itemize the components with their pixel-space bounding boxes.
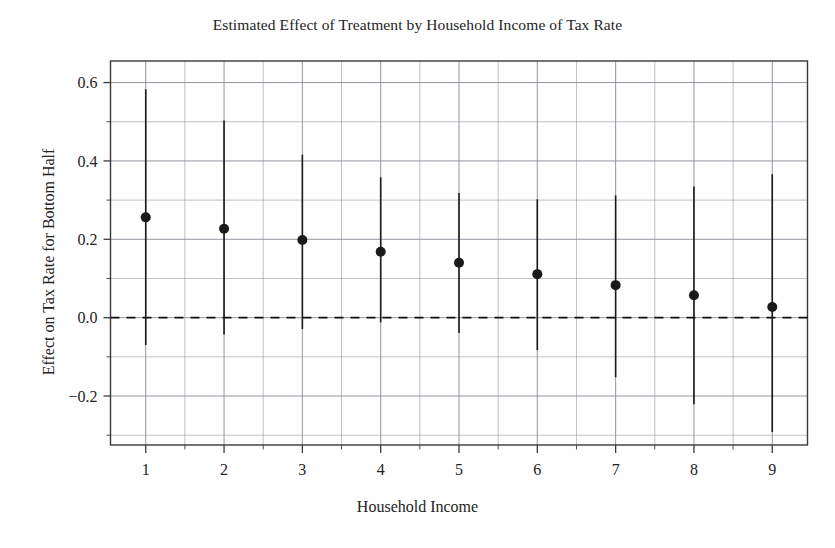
data-point — [297, 235, 307, 245]
y-tick-label: 0.0 — [78, 309, 98, 326]
data-point — [767, 302, 777, 312]
x-tick-label: 3 — [298, 461, 306, 478]
x-tick-label: 5 — [455, 461, 463, 478]
data-point — [376, 247, 386, 257]
y-tick-label: 0.4 — [78, 153, 98, 170]
x-axis-tick-labels: 123456789 — [142, 461, 777, 478]
x-tick-label: 1 — [142, 461, 150, 478]
y-axis-ticks — [104, 83, 111, 436]
x-tick-label: 7 — [612, 461, 620, 478]
x-axis-ticks — [146, 445, 773, 453]
x-tick-label: 8 — [690, 461, 698, 478]
data-point — [141, 212, 151, 222]
x-tick-label: 4 — [377, 461, 385, 478]
data-point — [454, 258, 464, 268]
y-tick-label: 0.2 — [78, 231, 98, 248]
data-point — [532, 269, 542, 279]
y-tick-label: 0.6 — [78, 74, 98, 91]
x-tick-label: 9 — [768, 461, 776, 478]
x-tick-label: 2 — [220, 461, 228, 478]
chart-figure: Estimated Effect of Treatment by Househo… — [0, 0, 835, 548]
y-tick-label: −0.2 — [68, 388, 97, 405]
data-point — [611, 280, 621, 290]
y-axis-tick-labels: −0.20.00.20.40.6 — [68, 74, 97, 404]
x-tick-label: 6 — [533, 461, 541, 478]
plot-area: −0.20.00.20.40.6 123456789 — [0, 0, 835, 548]
data-point — [689, 290, 699, 300]
data-point — [219, 224, 229, 234]
